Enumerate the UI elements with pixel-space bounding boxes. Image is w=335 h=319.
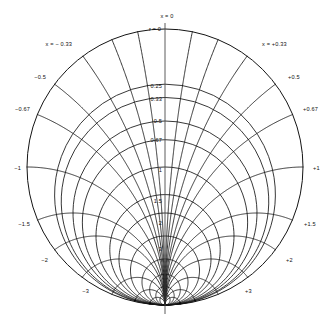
x-label-left-4: −1.5	[18, 221, 30, 227]
coordinate-grid-svg: x = − 0.33−0.5−0.67−1−1.5−2−3 x = +0.33+…	[0, 0, 335, 319]
x-label-right-0: x = +0.33	[262, 41, 287, 47]
smith-chart-diagram: x = − 0.33−0.5−0.67−1−1.5−2−3 x = +0.33+…	[0, 0, 335, 319]
r-label-center-5: 1.5	[154, 198, 162, 204]
axis-label-r-zero: r = 0	[149, 26, 161, 32]
x-label-right-5: +2	[286, 257, 293, 263]
x-label-right-1: +0.5	[288, 74, 300, 80]
x-label-left-2: −0.67	[15, 106, 30, 112]
x-label-right-2: +0.67	[303, 106, 318, 112]
x-label-left-5: −2	[41, 257, 48, 263]
x-label-left-6: −3	[82, 288, 89, 294]
r-label-center-4: 1	[159, 167, 162, 173]
r-label-center-3: 0.67	[151, 137, 163, 143]
x-label-right-4: +1.5	[304, 221, 316, 227]
x-label-right-3: +1	[313, 165, 320, 171]
axis-label-x-zero: x = 0	[160, 13, 173, 19]
x-label-left-3: −1	[14, 165, 21, 171]
r-label-center-1: 0.33	[151, 96, 163, 102]
r-label-center-7: 3	[159, 246, 162, 252]
r-label-center-2: 0.5	[154, 118, 162, 124]
r-label-center-0: 0.25	[151, 83, 163, 89]
r-label-center-6: 2	[159, 220, 162, 226]
x-label-left-0: x = − 0.33	[46, 41, 72, 47]
x-label-right-6: +3	[245, 288, 252, 294]
x-label-left-1: −0.5	[34, 74, 46, 80]
